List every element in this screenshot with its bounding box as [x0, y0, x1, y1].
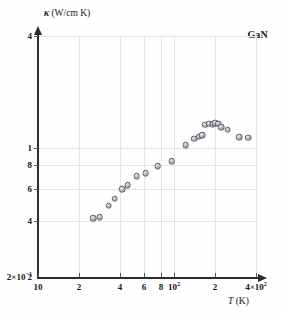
y-axis-tick — [34, 36, 38, 37]
x-axis-tick-label: 102 — [168, 282, 180, 292]
y-axis-title-symbol: κ — [44, 8, 49, 18]
x-axis-title: T (K) — [228, 296, 249, 306]
x-axis-title-units: (K) — [236, 296, 249, 306]
x-axis-tick-label: 4 — [118, 282, 123, 292]
gridline-vertical — [120, 36, 121, 277]
x-axis-tick-label: 4×102 — [245, 282, 267, 292]
data-point — [111, 195, 118, 202]
data-point — [124, 182, 131, 189]
data-point — [143, 170, 150, 177]
y-axis-tick — [34, 148, 38, 149]
y-axis-title-units: (W/cm K) — [51, 8, 90, 18]
y-axis-tick-label: 8 — [0, 160, 32, 170]
gridline-vertical — [161, 36, 162, 277]
x-axis-tick — [256, 273, 257, 277]
y-axis-tick-label: 4 — [0, 216, 32, 226]
gridline-vertical — [144, 36, 145, 277]
data-point — [224, 126, 231, 133]
x-axis-tick-label: 2 — [213, 282, 218, 292]
y-axis-line — [37, 34, 39, 279]
gridline-horizontal — [38, 165, 256, 166]
gridline-vertical — [174, 36, 175, 277]
data-point — [105, 202, 112, 209]
data-point — [155, 163, 162, 170]
x-axis-tick-label: 2 — [77, 282, 82, 292]
x-axis-tick — [174, 273, 175, 277]
y-axis-tick-label: 4 — [0, 31, 32, 41]
x-axis-title-symbol: T — [228, 296, 233, 306]
x-axis-line — [37, 277, 261, 279]
y-axis-tick — [34, 165, 38, 166]
data-point — [236, 134, 243, 141]
y-axis-tick-label: 6 — [0, 184, 32, 194]
x-axis-tick — [161, 273, 162, 277]
x-axis-tick — [38, 273, 39, 277]
y-axis-base-label: 2×10−1 — [0, 272, 32, 282]
data-point — [245, 134, 252, 141]
gridline-horizontal — [38, 189, 256, 190]
x-axis-tick — [144, 273, 145, 277]
figure-gan-thermal-conductivity: κ (W/cm K) T (K) GaN 10246810224×1024186… — [0, 0, 284, 315]
data-point — [90, 215, 97, 222]
data-point — [199, 132, 206, 139]
x-axis-tick-label: 10 — [34, 282, 43, 292]
gridline-vertical — [256, 36, 257, 277]
y-axis-title: κ (W/cm K) — [44, 8, 90, 18]
data-point — [133, 173, 140, 180]
gridline-horizontal — [38, 221, 256, 222]
gridline-horizontal — [38, 148, 256, 149]
data-point — [183, 142, 190, 149]
gridline-horizontal — [38, 36, 256, 37]
y-axis-arrow-icon — [34, 26, 42, 35]
x-axis-tick — [215, 273, 216, 277]
y-axis-tick — [34, 221, 38, 222]
gridline-vertical — [79, 36, 80, 277]
plot-area — [38, 36, 256, 277]
data-point — [168, 158, 175, 165]
gridline-vertical — [215, 36, 216, 277]
x-axis-tick — [79, 273, 80, 277]
y-axis-tick-label: 1 — [0, 143, 32, 153]
x-axis-tick-label: 6 — [142, 282, 147, 292]
x-axis-tick-label: 8 — [159, 282, 164, 292]
y-axis-tick — [34, 189, 38, 190]
x-axis-tick — [120, 273, 121, 277]
data-point — [97, 214, 104, 221]
